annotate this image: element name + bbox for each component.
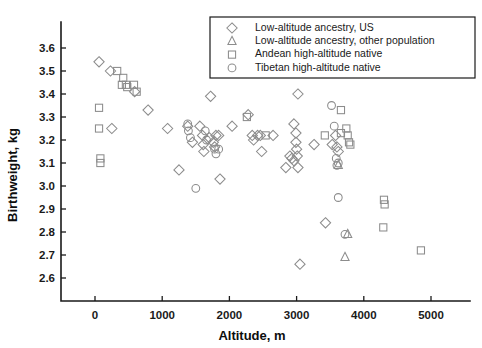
data-points-layer <box>94 57 425 270</box>
data-point <box>257 146 267 156</box>
data-point <box>192 184 200 192</box>
data-point <box>380 224 387 231</box>
x-tick-label: 4000 <box>351 309 377 321</box>
x-tick-label: 3000 <box>284 309 310 321</box>
data-point <box>95 125 102 132</box>
y-tick-label: 3.0 <box>39 180 55 192</box>
data-point <box>328 102 336 110</box>
data-point <box>95 104 102 111</box>
data-point <box>330 122 338 130</box>
y-tick-label: 2.9 <box>39 203 55 215</box>
legend-label: Tibetan high-altitude native <box>255 61 381 73</box>
data-point <box>174 165 184 175</box>
legend-label: Low-altitude ancestry, US <box>255 21 374 33</box>
data-point <box>417 247 424 254</box>
data-point <box>162 123 172 133</box>
data-point <box>120 74 127 81</box>
data-point <box>243 110 253 120</box>
y-tick-label: 3.4 <box>39 88 56 100</box>
data-point <box>309 139 319 149</box>
data-point <box>195 121 205 131</box>
data-point <box>97 155 104 162</box>
data-point <box>293 162 303 172</box>
x-axis-ticks: 010002000300040005000 <box>92 296 444 321</box>
data-point <box>205 91 215 101</box>
y-axis-title: Birthweight, kg <box>5 128 20 222</box>
y-tick-label: 3.1 <box>39 157 56 169</box>
y-tick-label: 3.5 <box>39 65 56 77</box>
legend-label: Andean high-altitude native <box>255 47 382 59</box>
series-triangle <box>334 160 352 260</box>
x-tick-label: 0 <box>92 309 98 321</box>
data-point <box>199 146 209 156</box>
data-point <box>332 142 342 152</box>
y-tick-label: 3.6 <box>39 42 55 54</box>
data-point <box>337 107 344 114</box>
data-point <box>215 174 225 184</box>
data-point <box>341 252 349 260</box>
data-point <box>243 113 250 120</box>
y-axis-ticks: 2.62.72.82.93.03.13.23.33.43.53.6 <box>39 42 66 284</box>
x-axis-title: Altitude, m <box>218 328 285 343</box>
data-point <box>94 57 104 67</box>
y-tick-label: 2.7 <box>39 249 55 261</box>
y-tick-label: 3.2 <box>39 134 55 146</box>
data-point <box>107 123 117 133</box>
data-point <box>295 259 305 269</box>
legend: Low-altitude ancestry, USLow-altitude an… <box>210 17 475 78</box>
x-tick-label: 1000 <box>149 309 175 321</box>
scatter-plot: 2.62.72.82.93.03.13.23.33.43.53.6 010002… <box>0 0 482 348</box>
data-point <box>143 105 153 115</box>
y-tick-label: 2.8 <box>39 226 56 238</box>
y-tick-label: 2.6 <box>39 272 55 284</box>
data-point <box>320 218 330 228</box>
data-point <box>293 89 303 99</box>
data-point <box>281 162 291 172</box>
series-circle <box>184 102 349 239</box>
data-point <box>291 144 301 154</box>
data-point <box>97 159 104 166</box>
series-square <box>95 67 424 254</box>
data-point <box>287 153 297 163</box>
y-tick-label: 3.3 <box>39 111 55 123</box>
data-point <box>344 132 351 139</box>
x-tick-label: 5000 <box>418 309 444 321</box>
x-tick-label: 2000 <box>217 309 243 321</box>
data-point <box>343 125 350 132</box>
chart-figure: 2.62.72.82.93.03.13.23.33.43.53.6 010002… <box>0 0 482 348</box>
data-point <box>227 121 237 131</box>
legend-label: Low-altitude ancestry, other population <box>255 34 435 46</box>
data-point <box>321 132 328 139</box>
data-point <box>289 119 299 129</box>
data-point <box>114 67 121 74</box>
data-point <box>187 137 197 147</box>
data-point <box>334 194 342 202</box>
